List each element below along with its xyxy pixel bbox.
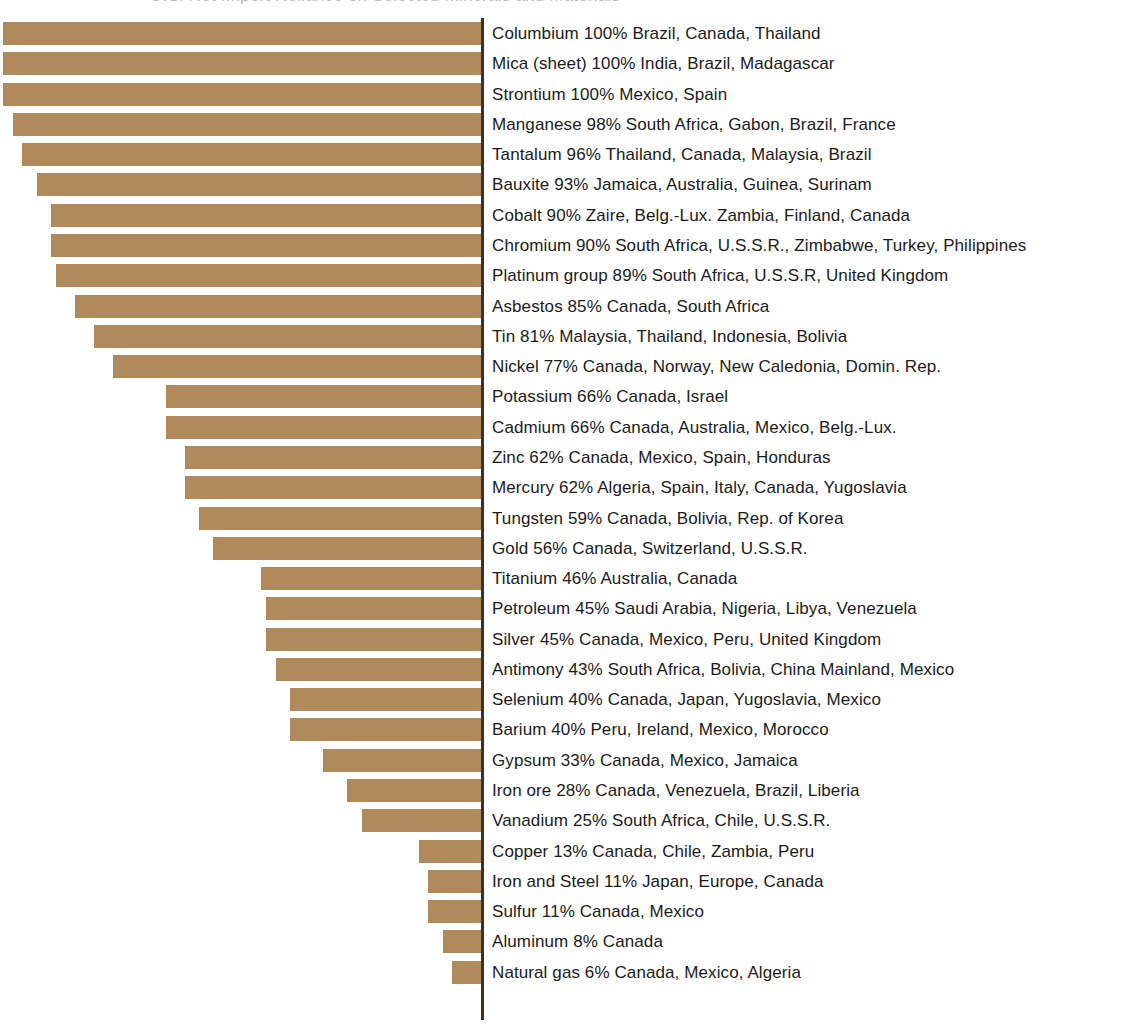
bar-label-mineral: Iron ore xyxy=(492,781,551,800)
bar-label-sources: Canada, Mexico, Peru, United Kingdom xyxy=(574,630,881,649)
bar xyxy=(51,234,481,257)
bar-row: Antimony 43% South Africa, Bolivia, Chin… xyxy=(0,658,1134,681)
bar-label-sources: Canada, South Africa xyxy=(602,297,770,316)
bar-label-mineral: Manganese xyxy=(492,115,582,134)
bar-label: Platinum group 89% South Africa, U.S.S.R… xyxy=(492,264,948,287)
bar-label: Silver 45% Canada, Mexico, Peru, United … xyxy=(492,628,881,651)
bar xyxy=(290,718,481,741)
bar-label-sources: Canada, Japan, Yugoslavia, Mexico xyxy=(603,690,881,709)
bar-row: Gypsum 33% Canada, Mexico, Jamaica xyxy=(0,749,1134,772)
bar-label-sources: Canada, Mexico, Spain, Honduras xyxy=(564,448,831,467)
bar-label: Petroleum 45% Saudi Arabia, Nigeria, Lib… xyxy=(492,597,917,620)
bar-label: Columbium 100% Brazil, Canada, Thailand xyxy=(492,22,821,45)
bar xyxy=(347,779,481,802)
bar-label-mineral: Cadmium xyxy=(492,418,565,437)
bar-label: Aluminum 8% Canada xyxy=(492,930,663,953)
bar xyxy=(185,446,481,469)
bar-label: Selenium 40% Canada, Japan, Yugoslavia, … xyxy=(492,688,881,711)
bar-label-percent: 100% xyxy=(587,54,636,73)
bar-row: Platinum group 89% South Africa, U.S.S.R… xyxy=(0,264,1134,287)
bar-row: Manganese 98% South Africa, Gabon, Brazi… xyxy=(0,113,1134,136)
bar xyxy=(113,355,481,378)
bar-label-percent: 85% xyxy=(563,297,602,316)
bar xyxy=(3,22,481,45)
bar-row: Potassium 66% Canada, Israel xyxy=(0,385,1134,408)
bar-label-mineral: Barium xyxy=(492,720,546,739)
bar-label-percent: 93% xyxy=(549,175,588,194)
bar-label-mineral: Iron and Steel xyxy=(492,872,599,891)
bar xyxy=(75,295,481,318)
bar-label: Copper 13% Canada, Chile, Zambia, Peru xyxy=(492,840,814,863)
bar-label: Bauxite 93% Jamaica, Australia, Guinea, … xyxy=(492,173,872,196)
bar-label-sources: Canada, Australia, Mexico, Belg.-Lux. xyxy=(605,418,897,437)
bar-label-sources: Canada, Venezuela, Brazil, Liberia xyxy=(591,781,860,800)
bar-label-percent: 62% xyxy=(525,448,564,467)
bar xyxy=(443,930,481,953)
bar-label: Gold 56% Canada, Switzerland, U.S.S.R. xyxy=(492,537,808,560)
bar-row: Titanium 46% Australia, Canada xyxy=(0,567,1134,590)
bar-row: Tungsten 59% Canada, Bolivia, Rep. of Ko… xyxy=(0,507,1134,530)
bar-row: Bauxite 93% Jamaica, Australia, Guinea, … xyxy=(0,173,1134,196)
bar-label-mineral: Bauxite xyxy=(492,175,549,194)
bar-label-mineral: Potassium xyxy=(492,387,572,406)
bar-label-sources: Zaire, Belg.-Lux. Zambia, Finland, Canad… xyxy=(581,206,910,225)
bar xyxy=(185,476,481,499)
bar-label-sources: Canada, Chile, Zambia, Peru xyxy=(588,842,815,861)
bar-label-percent: 89% xyxy=(608,266,647,285)
bar-row: Silver 45% Canada, Mexico, Peru, United … xyxy=(0,628,1134,651)
bar-label: Sulfur 11% Canada, Mexico xyxy=(492,900,704,923)
bar-row: Sulfur 11% Canada, Mexico xyxy=(0,900,1134,923)
bar xyxy=(419,840,481,863)
bar-row: Columbium 100% Brazil, Canada, Thailand xyxy=(0,22,1134,45)
bar-label-sources: Canada, Mexico xyxy=(575,902,704,921)
bar-row: Gold 56% Canada, Switzerland, U.S.S.R. xyxy=(0,537,1134,560)
bar-row: Zinc 62% Canada, Mexico, Spain, Honduras xyxy=(0,446,1134,469)
bar xyxy=(51,204,481,227)
bar-row: Strontium 100% Mexico, Spain xyxy=(0,83,1134,106)
bar xyxy=(13,113,481,136)
bar-label: Iron and Steel 11% Japan, Europe, Canada xyxy=(492,870,824,893)
bar-label: Natural gas 6% Canada, Mexico, Algeria xyxy=(492,961,801,984)
bar xyxy=(56,264,481,287)
bar-label: Asbestos 85% Canada, South Africa xyxy=(492,295,769,318)
bar xyxy=(3,83,481,106)
bar-row: Nickel 77% Canada, Norway, New Caledonia… xyxy=(0,355,1134,378)
bar xyxy=(428,900,481,923)
bar-label: Gypsum 33% Canada, Mexico, Jamaica xyxy=(492,749,798,772)
bar xyxy=(3,52,481,75)
bar-label-mineral: Mercury xyxy=(492,478,554,497)
bar-label-percent: 59% xyxy=(563,509,602,528)
bar-label-percent: 8% xyxy=(568,932,598,951)
bar xyxy=(266,628,481,651)
bar-label: Iron ore 28% Canada, Venezuela, Brazil, … xyxy=(492,779,860,802)
bar-label-percent: 62% xyxy=(554,478,593,497)
bar-label: Strontium 100% Mexico, Spain xyxy=(492,83,727,106)
bar-label-sources: South Africa, U.S.S.R, United Kingdom xyxy=(647,266,948,285)
bar-row: Barium 40% Peru, Ireland, Mexico, Morocc… xyxy=(0,718,1134,741)
bar xyxy=(266,597,481,620)
bar-row: Mica (sheet) 100% India, Brazil, Madagas… xyxy=(0,52,1134,75)
bar xyxy=(166,385,482,408)
bar-label-mineral: Sulfur xyxy=(492,902,537,921)
bar-label-mineral: Nickel xyxy=(492,357,539,376)
bar-label-percent: 90% xyxy=(542,206,581,225)
bar-label-percent: 33% xyxy=(556,751,595,770)
bar-label-mineral: Asbestos xyxy=(492,297,563,316)
bar-label-percent: 66% xyxy=(565,418,604,437)
bar xyxy=(276,658,482,681)
bar-label-mineral: Cobalt xyxy=(492,206,542,225)
bar-label: Zinc 62% Canada, Mexico, Spain, Honduras xyxy=(492,446,831,469)
bar-row: Asbestos 85% Canada, South Africa xyxy=(0,295,1134,318)
bar-label-sources: Malaysia, Thailand, Indonesia, Bolivia xyxy=(554,327,847,346)
bar-label-sources: India, Brazil, Madagascar xyxy=(635,54,834,73)
bar-row: Selenium 40% Canada, Japan, Yugoslavia, … xyxy=(0,688,1134,711)
bar-label-sources: South Africa, U.S.S.R., Zimbabwe, Turkey… xyxy=(610,236,1026,255)
bar-row: Vanadium 25% South Africa, Chile, U.S.S.… xyxy=(0,809,1134,832)
bar-label: Antimony 43% South Africa, Bolivia, Chin… xyxy=(492,658,954,681)
bar xyxy=(261,567,481,590)
bar-label-sources: South Africa, Chile, U.S.S.R. xyxy=(607,811,830,830)
bar-label-mineral: Columbium xyxy=(492,24,579,43)
bar-label-percent: 11% xyxy=(599,872,637,891)
bar-label-mineral: Petroleum xyxy=(492,599,570,618)
bar-label-mineral: Gold xyxy=(492,539,528,558)
